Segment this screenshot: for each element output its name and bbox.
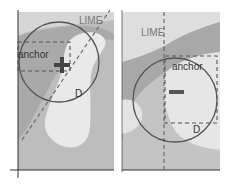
lime-anchor-comparison-figure: LIME anchor D LIME anchor D bbox=[0, 0, 230, 186]
left-d-label: D bbox=[75, 88, 82, 99]
left-lime-label: LIME bbox=[79, 15, 103, 26]
right-anchor-label: anchor bbox=[172, 61, 203, 72]
right-panel: LIME anchor D bbox=[122, 10, 220, 172]
minus-icon bbox=[169, 90, 184, 94]
left-anchor-label: anchor bbox=[18, 49, 49, 60]
right-lime-label: LIME bbox=[141, 27, 165, 38]
left-panel: LIME anchor D bbox=[10, 10, 114, 178]
right-d-label: D bbox=[193, 124, 200, 135]
